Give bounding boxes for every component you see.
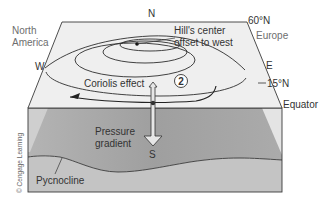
hill-center-line2: offset to west xyxy=(174,37,233,48)
north-america-line1: North xyxy=(12,25,36,36)
lat-60n-label: 60°N xyxy=(248,15,270,26)
south-label: S xyxy=(149,149,156,160)
west-label: W xyxy=(35,61,45,72)
north-america-line2: America xyxy=(12,37,49,48)
credit-label: © Cengage Learning xyxy=(16,133,24,193)
europe-label: Europe xyxy=(256,30,289,41)
svg-text:2: 2 xyxy=(178,76,184,87)
north-label: N xyxy=(148,8,155,19)
equator-label: Equator xyxy=(283,99,319,110)
hill-center-line1: Hill's center xyxy=(174,25,226,36)
gyre-diagram: 2 N 60°N North America Europe Hill's cen… xyxy=(0,0,330,205)
pycnocline-label: Pycnocline xyxy=(36,175,85,186)
lat-15n-label: 15°N xyxy=(267,78,289,89)
pressure-label-line1: Pressure xyxy=(95,126,135,137)
pressure-label-line2: gradient xyxy=(95,138,131,149)
step-badge: 2 xyxy=(175,75,188,88)
east-label: E xyxy=(266,60,273,71)
coriolis-label: Coriolis effect xyxy=(84,78,145,89)
